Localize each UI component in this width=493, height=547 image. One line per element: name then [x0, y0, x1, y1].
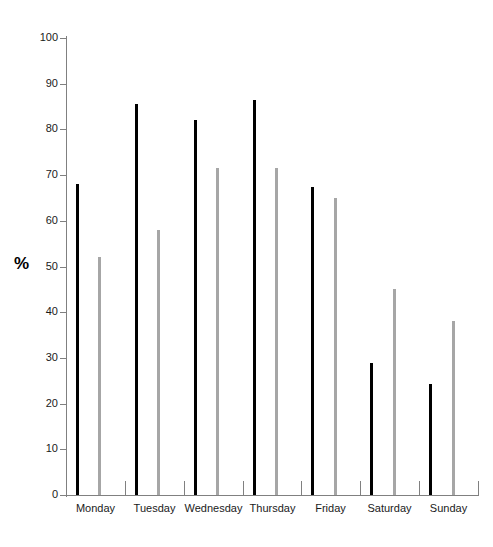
y-axis-line: [66, 36, 67, 497]
y-tick-label-wrap: 10: [0, 443, 58, 454]
x-axis-line: [66, 495, 479, 496]
x-group-tick-3: [243, 481, 244, 496]
y-tick-label-70: 70: [6, 169, 58, 180]
x-group-tick-7: [478, 481, 479, 496]
x-group-tick-4: [301, 481, 302, 496]
y-tick-70: [60, 175, 66, 176]
x-category-label-thursday: Thursday: [243, 502, 302, 515]
bar-monday-series-1: [76, 184, 79, 495]
x-group-tick-2: [184, 481, 185, 496]
bar-saturday-series-1: [370, 363, 373, 495]
bar-thursday-series-1: [253, 100, 256, 495]
y-tick-100: [60, 38, 66, 39]
bar-wednesday-series-2: [216, 168, 219, 495]
x-category-label-saturday: Saturday: [360, 502, 419, 515]
y-tick-20: [60, 404, 66, 405]
y-tick-label-wrap: 100: [0, 32, 58, 43]
bar-sunday-series-1: [429, 384, 432, 495]
y-tick-label-30: 30: [6, 352, 58, 363]
y-tick-10: [60, 449, 66, 450]
y-tick-label-10: 10: [6, 443, 58, 454]
bar-thursday-series-2: [275, 168, 278, 495]
y-tick-80: [60, 129, 66, 130]
y-tick-label-60: 60: [6, 215, 58, 226]
y-tick-label-100: 100: [6, 32, 58, 43]
y-tick-label-wrap: 0: [0, 489, 58, 500]
bar-chart: % 0102030405060708090100 MondayTuesdayWe…: [0, 0, 493, 547]
y-tick-label-wrap: 40: [0, 306, 58, 317]
x-category-label-friday: Friday: [301, 502, 360, 515]
bar-wednesday-series-1: [194, 120, 197, 495]
x-group-tick-6: [419, 481, 420, 496]
x-category-label-monday: Monday: [66, 502, 125, 515]
y-tick-label-wrap: 70: [0, 169, 58, 180]
y-tick-60: [60, 221, 66, 222]
x-category-label-sunday: Sunday: [419, 502, 478, 515]
y-tick-label-wrap: 30: [0, 352, 58, 363]
bar-tuesday-series-1: [135, 104, 138, 495]
y-tick-label-wrap: 90: [0, 78, 58, 89]
y-tick-label-50: 50: [6, 261, 58, 272]
bar-monday-series-2: [98, 257, 101, 495]
bar-friday-series-1: [311, 187, 314, 495]
bar-saturday-series-2: [393, 289, 396, 495]
y-tick-label-wrap: 20: [0, 398, 58, 409]
x-group-tick-1: [125, 481, 126, 496]
x-group-tick-0: [66, 481, 67, 496]
y-tick-label-90: 90: [6, 78, 58, 89]
y-tick-label-80: 80: [6, 123, 58, 134]
y-tick-label-40: 40: [6, 306, 58, 317]
y-tick-label-wrap: 50: [0, 261, 58, 272]
y-tick-30: [60, 358, 66, 359]
y-tick-50: [60, 267, 66, 268]
bar-friday-series-2: [334, 198, 337, 495]
y-tick-label-wrap: 80: [0, 123, 58, 134]
x-category-label-tuesday: Tuesday: [125, 502, 184, 515]
y-tick-label-20: 20: [6, 398, 58, 409]
y-tick-label-wrap: 60: [0, 215, 58, 226]
x-group-tick-5: [360, 481, 361, 496]
y-tick-label-0: 0: [6, 489, 58, 500]
x-category-label-wednesday: Wednesday: [184, 502, 243, 515]
bar-tuesday-series-2: [157, 230, 160, 495]
bar-sunday-series-2: [452, 321, 455, 495]
y-tick-90: [60, 84, 66, 85]
y-tick-40: [60, 312, 66, 313]
